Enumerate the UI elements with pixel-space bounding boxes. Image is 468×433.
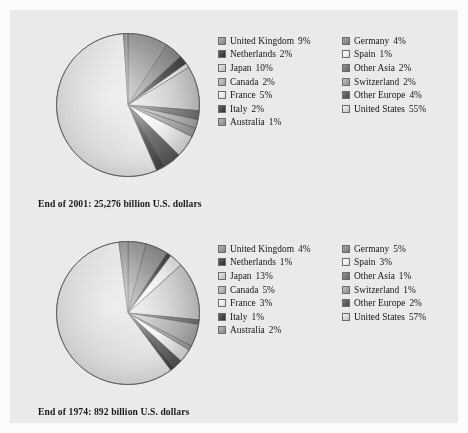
- legend-item: Other Asia2%: [342, 61, 468, 75]
- legend-label: Spain: [354, 257, 376, 267]
- legend-label: Other Europe: [354, 298, 405, 308]
- legend-item: Japan10%: [218, 61, 342, 75]
- legend-percent: 4%: [298, 244, 311, 254]
- chart-caption-2001: End of 2001: 25,276 billion U.S. dollars: [38, 198, 202, 209]
- legend-label: Australia: [230, 325, 265, 335]
- legend-label: Germany: [354, 36, 389, 46]
- legend-item: Japan13%: [218, 269, 342, 283]
- legend-swatch-icon: [218, 326, 226, 334]
- legend-item: France5%: [218, 88, 342, 102]
- legend-swatch-icon: [218, 64, 226, 72]
- legend-label: Italy: [230, 104, 247, 114]
- legend-label: Other Europe: [354, 90, 405, 100]
- legend-item: Netherlands1%: [218, 256, 342, 270]
- legend-item: Germany5%: [342, 242, 468, 256]
- legend-percent: 2%: [262, 77, 275, 87]
- legend-item: Germany4%: [342, 34, 468, 48]
- legend-item: Canada2%: [218, 75, 342, 89]
- legend-item: Canada5%: [218, 283, 342, 297]
- legend-label: France: [230, 298, 256, 308]
- legend-percent: 1%: [280, 257, 293, 267]
- legend-swatch-icon: [342, 37, 350, 45]
- legend-1974: United Kingdom4%Netherlands1%Japan13%Can…: [218, 242, 468, 337]
- legend-item: Spain3%: [342, 256, 468, 270]
- legend-label: Italy: [230, 312, 247, 322]
- legend-swatch-icon: [342, 313, 350, 321]
- legend-item: Other Asia1%: [342, 269, 468, 283]
- pie-svg-2001: [48, 28, 208, 183]
- legend-percent: 55%: [409, 104, 426, 114]
- legend-swatch-icon: [342, 245, 350, 253]
- legend-swatch-icon: [342, 91, 350, 99]
- legend-label: Australia: [230, 117, 265, 127]
- legend-label: Switzerland: [354, 285, 399, 295]
- legend-swatch-icon: [342, 258, 350, 266]
- legend-swatch-icon: [218, 258, 226, 266]
- chart-caption-1974: End of 1974: 892 billion U.S. dollars: [38, 406, 189, 417]
- legend-label: United States: [354, 104, 405, 114]
- legend-column-right: Germany5%Spain3%Other Asia1%Switzerland1…: [342, 242, 468, 337]
- legend-label: Germany: [354, 244, 389, 254]
- legend-swatch-icon: [218, 245, 226, 253]
- legend-swatch-icon: [218, 272, 226, 280]
- legend-item: United Kingdom9%: [218, 34, 342, 48]
- legend-swatch-icon: [342, 64, 350, 72]
- legend-label: Canada: [230, 77, 258, 87]
- legend-label: Japan: [230, 63, 252, 73]
- legend-percent: 3%: [380, 257, 393, 267]
- legend-swatch-icon: [342, 50, 350, 58]
- legend-column-right: Germany4%Spain1%Other Asia2%Switzerland2…: [342, 34, 468, 129]
- legend-percent: 5%: [262, 285, 275, 295]
- legend-label: Netherlands: [230, 49, 276, 59]
- legend-label: United States: [354, 312, 405, 322]
- legend-percent: 2%: [280, 49, 293, 59]
- legend-percent: 4%: [409, 90, 422, 100]
- legend-label: Switzerland: [354, 77, 399, 87]
- legend-label: Japan: [230, 271, 252, 281]
- legend-percent: 2%: [409, 298, 422, 308]
- legend-item: United Kingdom4%: [218, 242, 342, 256]
- legend-swatch-icon: [218, 286, 226, 294]
- legend-label: France: [230, 90, 256, 100]
- legend-percent: 5%: [393, 244, 406, 254]
- legend-item: Italy1%: [218, 310, 342, 324]
- legend-swatch-icon: [342, 105, 350, 113]
- legend-column-left: United Kingdom9%Netherlands2%Japan10%Can…: [218, 34, 342, 129]
- legend-swatch-icon: [218, 91, 226, 99]
- legend-item: United States55%: [342, 102, 468, 116]
- legend-swatch-icon: [218, 50, 226, 58]
- figure-page: End of 2001: 25,276 billion U.S. dollars…: [0, 0, 468, 433]
- legend-swatch-icon: [218, 299, 226, 307]
- legend-percent: 10%: [256, 63, 273, 73]
- legend-swatch-icon: [342, 286, 350, 294]
- legend-percent: 2%: [403, 77, 416, 87]
- legend-column-left: United Kingdom4%Netherlands1%Japan13%Can…: [218, 242, 342, 337]
- legend-percent: 4%: [393, 36, 406, 46]
- legend-item: Australia1%: [218, 116, 342, 130]
- legend-item: Italy2%: [218, 102, 342, 116]
- legend-percent: 2%: [251, 104, 264, 114]
- legend-swatch-icon: [342, 299, 350, 307]
- legend-swatch-icon: [342, 272, 350, 280]
- legend-percent: 57%: [409, 312, 426, 322]
- legend-2001: United Kingdom9%Netherlands2%Japan10%Can…: [218, 34, 468, 129]
- legend-swatch-icon: [342, 78, 350, 86]
- legend-swatch-icon: [218, 105, 226, 113]
- legend-label: Other Asia: [354, 63, 395, 73]
- legend-percent: 2%: [399, 63, 412, 73]
- legend-percent: 1%: [399, 271, 412, 281]
- legend-swatch-icon: [218, 118, 226, 126]
- pie-chart-2001: [48, 28, 208, 183]
- legend-label: United Kingdom: [230, 244, 294, 254]
- legend-item: Other Europe2%: [342, 296, 468, 310]
- legend-item: Other Europe4%: [342, 88, 468, 102]
- pie-svg-1974: [48, 236, 208, 391]
- legend-swatch-icon: [218, 78, 226, 86]
- legend-percent: 1%: [403, 285, 416, 295]
- legend-percent: 3%: [260, 298, 273, 308]
- chart-panel-1974: End of 1974: 892 billion U.S. dollars Un…: [10, 228, 468, 423]
- legend-label: United Kingdom: [230, 36, 294, 46]
- legend-percent: 1%: [269, 117, 282, 127]
- legend-item: Spain1%: [342, 48, 468, 62]
- legend-percent: 1%: [380, 49, 393, 59]
